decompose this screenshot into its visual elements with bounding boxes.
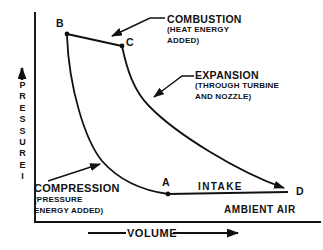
combustion-leader-arrow xyxy=(112,18,165,36)
compression-leader-arrow xyxy=(48,164,100,181)
compression-note: (PRESSURE ENERGY ADDED) xyxy=(34,195,103,216)
intake-line xyxy=(168,192,288,194)
intake-label: INTAKE xyxy=(198,181,243,192)
expansion-note: (THROUGH TURBINE AND NOZZLE) xyxy=(195,81,279,102)
combustion-note: (HEAT ENERGY ADDED) xyxy=(167,25,229,46)
point-b-dot xyxy=(65,32,70,37)
expansion-label: EXPANSION xyxy=(195,69,259,81)
compression-label: COMPRESSION xyxy=(34,182,120,194)
point-b-label: B xyxy=(56,17,64,29)
pv-diagram: PRESSURE I VOLUME B C A D COMBUSTION (HE… xyxy=(0,0,323,250)
y-axis-tail-mark: I xyxy=(16,171,29,182)
point-a-dot xyxy=(166,192,171,197)
expansion-leader-arrow xyxy=(154,76,194,97)
ambient-air-label: AMBIENT AIR xyxy=(224,204,296,215)
point-a-label: A xyxy=(162,176,170,188)
point-c-dot xyxy=(120,44,125,49)
point-c-label: C xyxy=(126,36,134,48)
expansion-curve xyxy=(122,46,284,188)
point-d-label: D xyxy=(296,185,304,197)
combustion-label: COMBUSTION xyxy=(167,13,242,25)
x-axis-label: VOLUME xyxy=(127,227,177,239)
y-axis-label: PRESSURE xyxy=(16,80,29,171)
